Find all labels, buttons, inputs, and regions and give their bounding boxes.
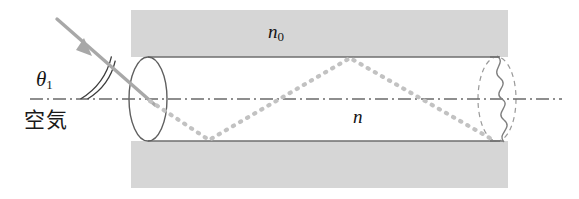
label-air-medium: 空気 bbox=[24, 110, 68, 131]
label-core-index: n bbox=[353, 107, 363, 126]
label-cladding-index: n0 bbox=[268, 22, 284, 43]
core-index-symbol: n bbox=[353, 106, 363, 127]
angle-arc-theta1 bbox=[81, 56, 116, 99]
theta-subscript: 1 bbox=[46, 77, 53, 92]
figure-canvas bbox=[0, 0, 579, 199]
cladding-index-symbol: n bbox=[268, 21, 278, 42]
cladding-index-subscript: 0 bbox=[278, 29, 285, 44]
label-incidence-angle: θ1 bbox=[36, 69, 53, 91]
theta-symbol: θ bbox=[36, 67, 46, 91]
optical-fiber-diagram: n0 n θ1 空気 bbox=[0, 0, 579, 199]
